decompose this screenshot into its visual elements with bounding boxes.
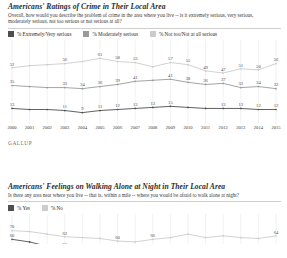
legend-swatch-icon <box>150 31 156 37</box>
legend-item-label: % Moderately serious <box>92 31 138 37</box>
chart2-legend: % Yes % No <box>0 205 287 211</box>
x-tick-label: 2002 <box>43 125 52 130</box>
data-label: 12 <box>274 103 279 108</box>
legend-swatch-icon <box>8 205 14 211</box>
data-label: 51 <box>239 63 244 68</box>
x-tick-label: 2003 <box>60 125 69 130</box>
data-label: 70 <box>10 224 15 229</box>
data-label: 50 <box>256 64 261 69</box>
data-label: 66 <box>151 233 156 238</box>
legend-item-label: % No <box>51 205 63 211</box>
legend-item-label: % Extremely/Very serious <box>17 31 71 37</box>
data-label: 13 <box>151 101 156 106</box>
chart1-svg: 5256615853575549475150563533343639414138… <box>8 40 280 124</box>
legend-item-extremely-very[interactable]: % Extremely/Very serious <box>8 31 71 37</box>
data-label: 41 <box>168 73 173 78</box>
x-tick-label: 2012 <box>219 125 228 130</box>
data-label: 60 <box>10 233 15 238</box>
x-tick-label: 2005 <box>95 125 104 130</box>
data-label: 34 <box>256 81 261 86</box>
data-label: 39 <box>115 78 120 83</box>
x-tick-label: 2009 <box>166 125 175 130</box>
x-tick-label: 2013 <box>236 125 245 130</box>
chart-panel-crime-ratings: Americans' Ratings of Crime in Their Loc… <box>0 2 287 146</box>
data-label: 35 <box>10 79 15 84</box>
data-label: 33 <box>63 82 68 87</box>
data-label: 52 <box>10 62 15 67</box>
data-label: 60 <box>115 235 120 240</box>
x-tick-label: 2000 <box>7 125 16 130</box>
chart2-plot-area: 70626066646050 <box>8 214 287 244</box>
data-label: 53 <box>133 57 138 62</box>
data-label: 13 <box>133 102 138 107</box>
data-label: 62 <box>63 230 68 235</box>
x-tick-label: 2015 <box>271 125 280 130</box>
x-tick-label: 2014 <box>254 125 263 130</box>
data-label: 36 <box>98 81 103 86</box>
chart-panel-walking-alone: Americans' Feelings on Walking Alone at … <box>0 182 287 244</box>
data-label: 61 <box>98 52 103 57</box>
data-label: 9 <box>81 107 84 112</box>
x-tick-label: 2004 <box>78 125 87 130</box>
chart1-plot-area: 5256615853575549475150563533343639414138… <box>8 40 287 124</box>
legend-item-not-too[interactable]: % Not too/Not at all serious <box>150 31 217 37</box>
legend-swatch-icon <box>8 31 14 37</box>
data-label: 38 <box>186 76 191 81</box>
brand-logo: GALLUP <box>0 140 287 146</box>
data-label: 12 <box>115 103 120 108</box>
chart1-subtitle: Overall, how would you describe the prob… <box>0 12 287 25</box>
data-label: 13 <box>239 102 244 107</box>
data-label: 56 <box>63 58 68 63</box>
legend-swatch-icon <box>42 205 48 211</box>
data-label: 36 <box>203 78 208 83</box>
x-tick-label: 2006 <box>113 125 122 130</box>
chart2-subtitle: Is there any area near where you live --… <box>0 192 287 198</box>
data-label: 37 <box>221 77 226 82</box>
data-label: 50 <box>63 242 68 244</box>
chart1-legend: % Extremely/Very serious % Moderately se… <box>0 31 287 37</box>
data-label: 12 <box>256 103 261 108</box>
chart2-title: Americans' Feelings on Walking Alone at … <box>0 182 287 191</box>
chart2-divider <box>8 201 281 202</box>
page-title: Americans' Ratings of Crime in Their Loc… <box>0 2 287 11</box>
legend-item-yes[interactable]: % Yes <box>8 205 30 211</box>
legend-item-label: % Not too/Not at all serious <box>159 31 217 37</box>
legend-swatch-icon <box>83 31 89 37</box>
data-label: 34 <box>80 83 85 88</box>
data-label: 33 <box>239 82 244 87</box>
chart2-svg: 70626066646050 <box>8 214 280 244</box>
data-label: 41 <box>133 75 138 80</box>
data-label: 47 <box>221 67 226 72</box>
legend-item-no[interactable]: % No <box>42 205 63 211</box>
data-label: 11 <box>98 105 103 110</box>
x-tick-label: 2001 <box>25 125 34 130</box>
data-label: 13 <box>10 102 15 107</box>
x-tick-label: 2010 <box>183 125 192 130</box>
data-label: 64 <box>274 230 279 235</box>
chart1-divider <box>8 28 281 29</box>
data-label: 13 <box>221 102 226 107</box>
data-label: 32 <box>274 83 279 88</box>
legend-item-label: % Yes <box>17 205 30 211</box>
x-tick-label: 2007 <box>131 125 140 130</box>
data-label: 56 <box>274 58 279 63</box>
x-tick-label: 2011 <box>201 125 210 130</box>
screenshot-root: Americans' Ratings of Crime in Their Loc… <box>0 0 287 258</box>
data-label: 55 <box>186 59 191 64</box>
data-label: 15 <box>168 100 173 105</box>
data-label: 57 <box>168 57 173 62</box>
data-label: 11 <box>63 105 68 110</box>
data-label: 58 <box>115 56 120 61</box>
x-tick-label: 2008 <box>148 125 157 130</box>
chart1-x-axis: 2000200120022003200420052006200720082009… <box>8 125 287 134</box>
data-label: 49 <box>203 65 208 70</box>
legend-item-moderately[interactable]: % Moderately serious <box>83 31 138 37</box>
